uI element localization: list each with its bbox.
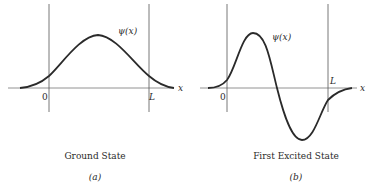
origin-label: 0 xyxy=(42,92,48,102)
wavefunction-diagram: ψ(x) 0 L x Ground State (a) ψ(x) 0 L x F… xyxy=(0,0,370,188)
origin-label: 0 xyxy=(220,92,226,102)
panel-sublabel: (a) xyxy=(89,172,102,182)
wavefunction-curve xyxy=(20,35,174,88)
wavefunction-curve xyxy=(208,33,352,140)
panel-ground-state: ψ(x) 0 L x Ground State (a) xyxy=(8,4,183,182)
caption: Ground State xyxy=(64,151,125,161)
well-width-label: L xyxy=(329,76,336,86)
x-axis-label: x xyxy=(178,83,183,93)
panel-first-excited-state: ψ(x) 0 L x First Excited State (b) xyxy=(200,4,365,182)
psi-label: ψ(x) xyxy=(118,26,138,36)
caption: First Excited State xyxy=(253,151,339,161)
panel-sublabel: (b) xyxy=(290,172,303,182)
psi-label: ψ(x) xyxy=(272,32,292,42)
well-width-label: L xyxy=(148,92,155,102)
x-axis-label: x xyxy=(360,83,365,93)
